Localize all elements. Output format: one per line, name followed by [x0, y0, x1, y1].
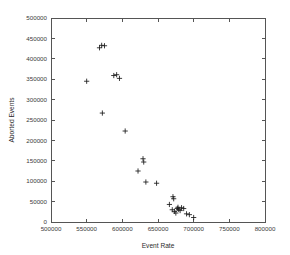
- y-tick-label: 150000: [26, 157, 47, 164]
- data-point-markers: [84, 43, 196, 220]
- plot-canvas: 0500001000001500002000002500003000003500…: [0, 0, 290, 255]
- data-point: [84, 79, 89, 84]
- y-axis-ticks: 0500001000001500002000002500003000003500…: [26, 14, 265, 225]
- y-tick-label: 450000: [26, 35, 47, 42]
- y-tick-label: 250000: [26, 116, 47, 123]
- x-tick-label: 750000: [219, 225, 240, 232]
- y-axis-title: Aborted Events: [8, 97, 15, 143]
- data-point: [117, 76, 122, 81]
- x-tick-label: 800000: [255, 225, 276, 232]
- y-tick-label: 500000: [26, 14, 47, 21]
- x-tick-label: 500000: [41, 225, 62, 232]
- y-tick-label: 350000: [26, 75, 47, 82]
- data-point: [100, 110, 105, 115]
- x-tick-label: 600000: [112, 225, 133, 232]
- plot-frame: [51, 18, 265, 222]
- data-point: [140, 156, 145, 161]
- x-axis-title: Event Rate: [142, 242, 175, 249]
- plot-border: [51, 18, 265, 222]
- x-tick-label: 650000: [148, 225, 169, 232]
- data-point: [187, 212, 192, 217]
- data-point: [191, 215, 196, 220]
- data-point: [114, 72, 119, 77]
- data-point: [111, 73, 116, 78]
- y-tick-label: 400000: [26, 55, 47, 62]
- y-tick-label: 50000: [30, 198, 48, 205]
- data-point: [154, 181, 159, 186]
- data-point: [184, 211, 189, 216]
- data-point: [141, 159, 146, 164]
- y-tick-label: 100000: [26, 177, 47, 184]
- y-tick-label: 300000: [26, 96, 47, 103]
- data-point: [143, 179, 148, 184]
- data-point: [123, 128, 128, 133]
- scatter-chart: 0500001000001500002000002500003000003500…: [0, 0, 290, 255]
- x-axis-ticks: 5000005500006000006500007000007500008000…: [41, 18, 276, 232]
- data-point: [102, 43, 107, 48]
- x-tick-label: 700000: [183, 225, 204, 232]
- data-point: [167, 202, 172, 207]
- data-point: [135, 168, 140, 173]
- y-tick-label: 200000: [26, 137, 47, 144]
- x-tick-label: 550000: [76, 225, 97, 232]
